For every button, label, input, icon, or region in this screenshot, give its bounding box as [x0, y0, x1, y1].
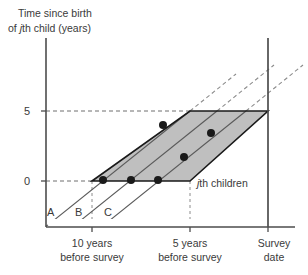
data-point [159, 121, 167, 129]
cohort-line-c-extension [246, 65, 303, 111]
shaded-region [92, 111, 268, 181]
x-tick-label-10-years-line1: 10 years [72, 237, 112, 249]
cohort-line-b-extension [217, 65, 274, 111]
axis-title-line1: Time since birth [18, 7, 92, 19]
x-tick-label-5-years-line1: 5 years [173, 237, 207, 249]
x-tick-label-survey-date-line2: date [264, 251, 285, 263]
data-point [180, 153, 188, 161]
axis-title-line2-post: th child (years) [22, 22, 91, 34]
figure-container: Time since birth of jth child (years) 5 … [0, 0, 308, 275]
data-point [207, 129, 215, 137]
region-label: jth children [195, 177, 248, 189]
y-tick-label-0: 0 [24, 175, 30, 187]
data-point [99, 176, 107, 184]
x-tick-label-5-years-line2: before survey [158, 251, 222, 263]
cohort-label-b: B [75, 206, 82, 218]
cohort-line-a-extension [190, 74, 236, 111]
cohort-label-a: A [47, 206, 55, 218]
cohort-label-c: C [104, 206, 112, 218]
x-tick-label-survey-date-line1: Survey [258, 237, 291, 249]
x-tick-label-10-years-line2: before survey [60, 251, 124, 263]
data-point [154, 176, 162, 184]
y-tick-label-5: 5 [24, 105, 30, 117]
chart-svg: Time since birth of jth child (years) 5 … [0, 0, 308, 275]
axis-title-line2-pre: of [8, 22, 20, 34]
data-point [127, 176, 135, 184]
region-label-text: th children [199, 177, 248, 189]
axis-title-line2: of jth child (years) [8, 22, 91, 34]
